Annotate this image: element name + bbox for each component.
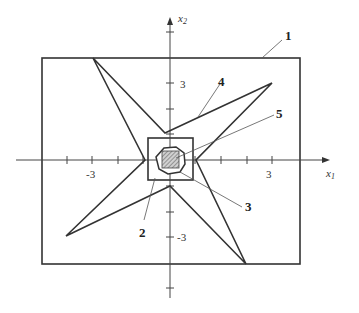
hatched-square (162, 151, 179, 168)
tick-label-x-3: 3 (266, 168, 272, 180)
tick-label-y-3: 3 (180, 78, 186, 90)
callout-5: 5 (276, 106, 283, 121)
y-axis-label: x2 (177, 12, 187, 26)
callout-3: 3 (245, 199, 252, 214)
tick-label-x-neg3: -3 (86, 168, 96, 180)
callout-4: 4 (218, 74, 225, 89)
leader-lines (144, 40, 282, 220)
callout-1: 1 (285, 28, 292, 43)
callout-2: 2 (139, 225, 146, 240)
diagram: 1 2 3 4 5 -3 3 3 -3 x2 x1 (0, 0, 359, 313)
x-axis-label: x1 (325, 167, 335, 181)
tick-label-y-neg3: -3 (177, 231, 187, 243)
